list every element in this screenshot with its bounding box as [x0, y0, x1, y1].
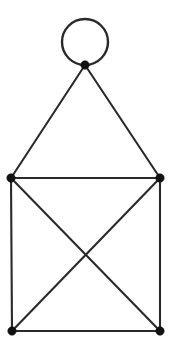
graph-figure	[0, 0, 173, 349]
vertex-bottom-right	[156, 327, 164, 335]
vertex-middle-right	[156, 174, 164, 182]
graph-canvas	[0, 0, 173, 349]
vertex-apex	[81, 61, 89, 69]
vertex-middle-left	[7, 174, 15, 182]
vertex-bottom-left	[8, 327, 16, 335]
canvas-background	[0, 0, 173, 349]
edge-middle-left-bottom-left	[11, 178, 12, 331]
